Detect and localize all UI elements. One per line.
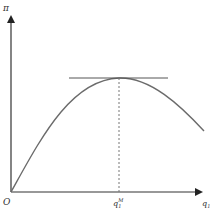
peak-x-label: q1M — [113, 197, 124, 209]
profit-curve-chart: π O q1M q1 — [0, 0, 215, 219]
profit-curve — [11, 78, 204, 192]
origin-label: O — [3, 197, 11, 207]
x-axis-label: q1 — [202, 199, 210, 209]
y-axis-label: π — [2, 3, 10, 13]
